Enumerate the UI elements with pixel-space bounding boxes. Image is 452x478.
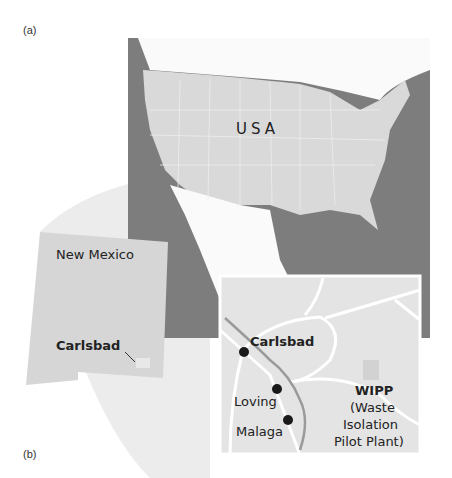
carlsbad-dot — [239, 347, 249, 357]
carlsbad-area-highlight — [136, 358, 150, 368]
wipp-desc-line3: Pilot Plant) — [334, 434, 404, 449]
new-mexico-label: New Mexico — [56, 247, 134, 262]
wipp-site-area — [363, 360, 379, 380]
malaga-dot — [283, 415, 293, 425]
wipp-desc-line2: Isolation — [343, 417, 398, 432]
wipp-desc-line1: (Waste — [350, 400, 395, 415]
malaga-label: Malaga — [236, 424, 283, 439]
loving-dot — [272, 384, 282, 394]
usa-label: USA — [236, 120, 279, 138]
wipp-label: WIPP — [355, 383, 393, 398]
inset-carlsbad-label: Carlsbad — [250, 334, 314, 349]
loving-label: Loving — [234, 394, 277, 409]
state-carlsbad-label: Carlsbad — [56, 338, 120, 353]
